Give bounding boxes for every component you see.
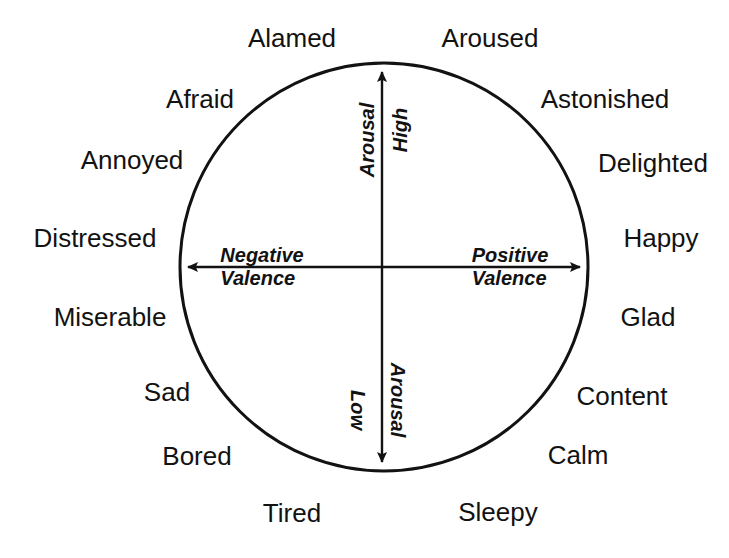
positive-valence-label-line1: Positive: [472, 245, 549, 266]
negative-valence-label-line2: Valence: [220, 268, 303, 289]
emotion-label-annoyed: Annoyed: [81, 147, 184, 173]
emotion-label-sleepy: Sleepy: [458, 499, 538, 525]
emotion-label-astonished: Astonished: [541, 86, 670, 112]
positive-valence-label-line2: Valence: [472, 268, 549, 289]
emotion-label-distressed: Distressed: [34, 225, 157, 251]
emotion-label-content: Content: [576, 383, 667, 409]
emotion-label-alamed: Alamed: [248, 25, 336, 51]
emotion-label-happy: Happy: [623, 225, 698, 251]
high-arousal-label-high: High: [390, 108, 410, 152]
low-arousal-label-low: Low: [348, 390, 368, 430]
emotion-label-tired: Tired: [263, 500, 321, 526]
emotion-label-delighted: Delighted: [598, 150, 708, 176]
emotion-label-aroused: Aroused: [442, 25, 539, 51]
emotion-label-sad: Sad: [144, 379, 190, 405]
low-arousal-label-arousal: Arousal: [388, 363, 408, 437]
emotion-label-glad: Glad: [621, 304, 676, 330]
negative-valence-label-line1: Negative: [220, 245, 303, 266]
high-arousal-label-arousal: Arousal: [357, 103, 377, 177]
positive-valence-label: Positive Valence: [472, 245, 549, 289]
emotion-label-bored: Bored: [162, 443, 231, 469]
emotion-label-afraid: Afraid: [166, 86, 234, 112]
emotion-label-calm: Calm: [548, 442, 609, 468]
negative-valence-label: Negative Valence: [220, 245, 303, 289]
emotion-label-miserable: Miserable: [54, 304, 167, 330]
